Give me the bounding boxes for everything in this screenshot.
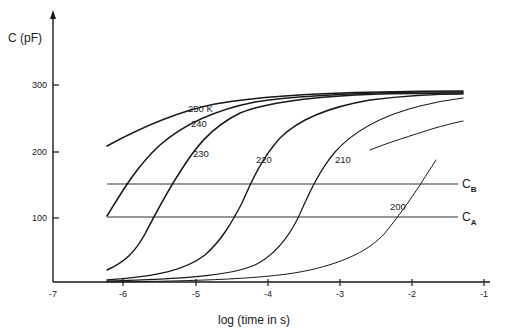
capacitance-transient-chart: 300 200 100 -7 -6 -5 -4 -3 -2 -1 C (pF) …	[0, 0, 507, 334]
axes	[50, 10, 490, 282]
curve-240	[107, 92, 463, 216]
curve-label-230: 230	[193, 148, 209, 159]
y-tick-200: 200	[32, 147, 47, 157]
curve-label-210: 210	[335, 154, 351, 165]
y-tick-300: 300	[32, 80, 47, 90]
curve-220	[107, 94, 463, 280]
curve-210	[107, 98, 463, 281]
ca-label: CA	[462, 210, 477, 227]
curve-label-220: 220	[256, 154, 272, 165]
x-tick-m3: -3	[336, 289, 344, 299]
cb-label: CB	[462, 177, 477, 194]
curves	[107, 91, 463, 282]
curve-label-250k: 250 K	[188, 103, 213, 114]
curve-200	[107, 160, 436, 282]
curve-250k	[107, 91, 463, 146]
x-tick-m7: -7	[49, 289, 57, 299]
x-axis-title: log (time in s)	[218, 313, 290, 327]
x-tick-m1: -1	[480, 289, 488, 299]
y-axis-title: C (pF)	[8, 31, 42, 45]
x-tick-m6: -6	[119, 289, 127, 299]
y-ticks	[53, 85, 59, 218]
y-tick-100: 100	[32, 213, 47, 223]
x-tick-m2: -2	[408, 289, 416, 299]
curve-230	[107, 93, 463, 270]
curve-200-tail	[370, 121, 463, 150]
curve-label-200: 200	[390, 201, 406, 212]
x-tick-m5: -5	[192, 289, 200, 299]
x-tick-m4: -4	[264, 289, 272, 299]
y-axis-arrow-icon	[50, 10, 56, 19]
curve-label-240: 240	[191, 118, 207, 129]
